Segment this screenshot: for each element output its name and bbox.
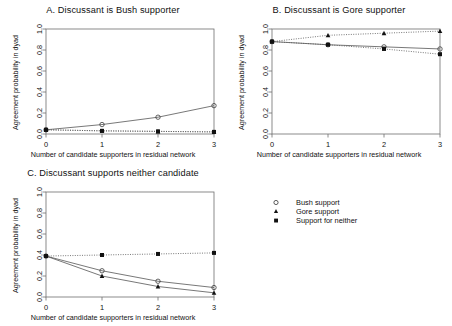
y-axis-tick-label: 0.0 xyxy=(261,129,270,139)
panel-c: C. Discussant supports neither candidate… xyxy=(0,163,226,326)
panel-a-plot: 0.00.20.40.60.81.00123 xyxy=(0,0,226,163)
x-axis-tick-label: 3 xyxy=(212,140,216,149)
data-point-filled-square xyxy=(44,254,48,258)
panel-c-plot: 0.00.20.40.60.81.00123 xyxy=(0,163,226,326)
y-axis-tick-label: 0.6 xyxy=(35,66,44,76)
y-axis-tick-label: 0.4 xyxy=(35,87,44,97)
x-axis-tick-label: 0 xyxy=(44,140,48,149)
data-point-filled-square xyxy=(100,129,104,133)
legend-item-gore-support: Gore support xyxy=(272,207,432,216)
panel-b: B. Discussant is Gore supporter Agreemen… xyxy=(226,0,452,163)
y-axis-tick-label: 1.0 xyxy=(35,24,44,34)
plot-frame xyxy=(46,29,214,134)
data-point-filled-square xyxy=(326,43,330,47)
x-axis-tick-label: 1 xyxy=(100,140,104,149)
x-axis-tick-label: 0 xyxy=(270,140,274,149)
plot-frame xyxy=(272,29,440,134)
y-axis-tick-label: 0.6 xyxy=(261,66,270,76)
x-axis-tick-label: 0 xyxy=(44,303,48,312)
legend-label-support-for-neither: Support for neither xyxy=(296,216,357,225)
data-point-filled-square xyxy=(156,129,160,133)
data-point-filled-square xyxy=(212,130,216,134)
series-line xyxy=(46,106,214,130)
data-point-filled-square xyxy=(382,47,386,51)
series-line xyxy=(272,42,440,49)
y-axis-tick-label: 0.6 xyxy=(35,229,44,239)
y-axis-tick-label: 0.4 xyxy=(261,87,270,97)
y-axis-tick-label: 0.8 xyxy=(35,208,44,218)
x-axis-tick-label: 3 xyxy=(438,140,442,149)
y-axis-tick-label: 0.0 xyxy=(35,129,44,139)
series-line xyxy=(46,256,214,293)
x-axis-tick-label: 1 xyxy=(100,303,104,312)
y-axis-tick-label: 1.0 xyxy=(35,187,44,197)
series-line xyxy=(272,31,440,41)
y-axis-tick-label: 0.2 xyxy=(35,271,44,281)
legend-label-bush-support: Bush support xyxy=(296,198,340,207)
series-line xyxy=(46,253,214,256)
data-point-filled-square xyxy=(212,251,216,255)
x-axis-tick-label: 2 xyxy=(156,303,160,312)
data-point-filled-square xyxy=(44,128,48,132)
data-point-filled-square xyxy=(100,253,104,257)
legend-label-gore-support: Gore support xyxy=(296,207,339,216)
x-axis-tick-label: 3 xyxy=(212,303,216,312)
legend-item-support-for-neither: Support for neither xyxy=(272,216,432,225)
series-line xyxy=(46,256,214,288)
open-circle-marker xyxy=(272,198,286,207)
y-axis-tick-label: 0.8 xyxy=(261,45,270,55)
y-axis-tick-label: 0.0 xyxy=(35,292,44,302)
y-axis-tick-label: 1.0 xyxy=(261,24,270,34)
data-point-filled-square xyxy=(156,252,160,256)
filled-triangle-marker xyxy=(272,207,286,216)
series-line xyxy=(46,130,214,132)
filled-square-marker xyxy=(272,216,286,225)
data-point-filled-square xyxy=(438,52,442,56)
figure-root: A. Discussant is Bush supporter Agreemen… xyxy=(0,0,452,326)
panel-b-plot: 0.00.20.40.60.81.00123 xyxy=(226,0,452,163)
legend-item-bush-support: Bush support xyxy=(272,198,432,207)
y-axis-tick-label: 0.2 xyxy=(261,108,270,118)
x-axis-tick-label: 2 xyxy=(382,140,386,149)
data-point-filled-square xyxy=(270,40,274,44)
x-axis-tick-label: 1 xyxy=(326,140,330,149)
x-axis-tick-label: 2 xyxy=(156,140,160,149)
legend: Bush support Gore support Support for ne… xyxy=(272,198,432,225)
y-axis-tick-label: 0.8 xyxy=(35,45,44,55)
panel-a: A. Discussant is Bush supporter Agreemen… xyxy=(0,0,226,163)
y-axis-tick-label: 0.4 xyxy=(35,250,44,260)
y-axis-tick-label: 0.2 xyxy=(35,108,44,118)
